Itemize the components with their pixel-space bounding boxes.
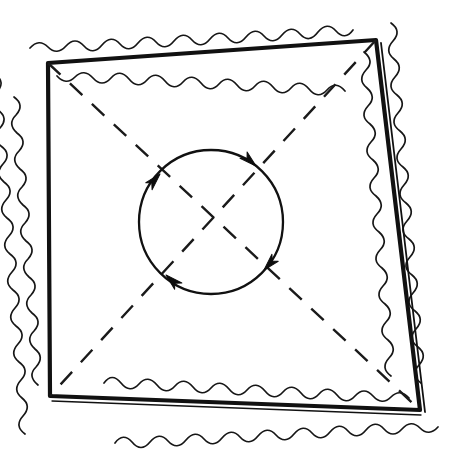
diagram-canvas bbox=[0, 0, 464, 449]
canvas-background bbox=[0, 0, 464, 449]
figure-root bbox=[0, 0, 464, 449]
